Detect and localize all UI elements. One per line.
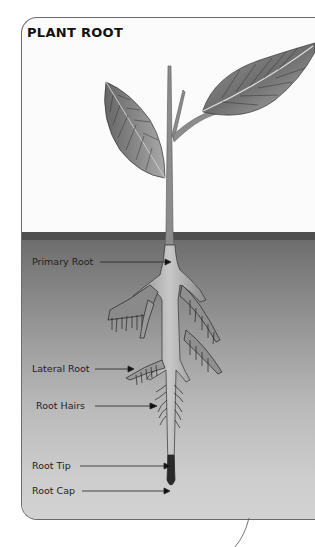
label-primary-root: Primary Root — [32, 256, 93, 267]
label-root-tip: Root Tip — [32, 460, 71, 471]
diagram-title: PLANT ROOT — [27, 25, 123, 40]
label-root-hairs: Root Hairs — [36, 400, 85, 411]
label-root-cap: Root Cap — [32, 485, 75, 496]
stem — [165, 66, 216, 245]
right-leaf — [203, 43, 315, 115]
primary-root-shape — [133, 245, 206, 470]
decorative-curve — [235, 518, 249, 547]
left-leaf — [105, 82, 165, 178]
label-lateral-root: Lateral Root — [32, 363, 90, 374]
